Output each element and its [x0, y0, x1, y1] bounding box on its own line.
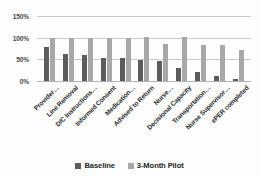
- bar-pilot[interactable]: [50, 38, 55, 81]
- bar-baseline[interactable]: [138, 60, 143, 81]
- bar-pilot[interactable]: [126, 38, 131, 81]
- legend-swatch-baseline: [75, 163, 81, 169]
- bar-group: [78, 16, 97, 81]
- bar-baseline[interactable]: [176, 68, 181, 81]
- legend-item[interactable]: 3-Month Pilot: [128, 161, 184, 170]
- bar-group: [116, 16, 135, 81]
- bar-chart: 150%100%50%0% Provider…Line RemovalD/C I…: [0, 0, 259, 176]
- bar-pilot[interactable]: [182, 37, 187, 81]
- bar-group: [97, 16, 116, 81]
- bar-baseline[interactable]: [82, 55, 87, 81]
- bar-group: [59, 16, 78, 81]
- bar-pilot[interactable]: [201, 45, 206, 81]
- bar-pilot[interactable]: [144, 37, 149, 81]
- legend-item[interactable]: Baseline: [75, 161, 114, 170]
- bar-group: [40, 16, 59, 81]
- bar-groups: [37, 16, 251, 81]
- bar-baseline[interactable]: [214, 76, 219, 81]
- bar-baseline[interactable]: [63, 54, 68, 81]
- bar-baseline[interactable]: [157, 61, 162, 81]
- bar-group: [172, 16, 191, 81]
- y-axis-tick-label: 50%: [16, 56, 29, 63]
- y-axis-tick-label: 100%: [13, 34, 29, 41]
- bar-group: [191, 16, 210, 81]
- legend-label: 3-Month Pilot: [137, 161, 184, 170]
- bar-pilot[interactable]: [239, 50, 244, 81]
- bar-pilot[interactable]: [220, 45, 225, 81]
- bar-pilot[interactable]: [107, 38, 112, 81]
- bar-baseline[interactable]: [101, 58, 106, 81]
- bar-baseline[interactable]: [120, 58, 125, 81]
- plot-area: [37, 16, 251, 81]
- bar-baseline[interactable]: [44, 47, 49, 81]
- chart-legend: Baseline3-Month Pilot: [0, 161, 259, 170]
- bar-pilot[interactable]: [69, 38, 74, 81]
- legend-swatch-pilot: [128, 163, 134, 169]
- bar-baseline[interactable]: [195, 72, 200, 81]
- legend-label: Baseline: [84, 161, 114, 170]
- bar-group: [210, 16, 229, 81]
- bar-baseline[interactable]: [233, 79, 238, 81]
- bar-group: [135, 16, 154, 81]
- bar-pilot[interactable]: [88, 38, 93, 81]
- x-axis-labels: Provider…Line RemovalD/C Instructions…In…: [37, 82, 251, 144]
- y-axis-tick-label: 150%: [13, 13, 29, 20]
- bar-group: [229, 16, 248, 81]
- bar-pilot[interactable]: [163, 44, 168, 81]
- bar-group: [153, 16, 172, 81]
- y-axis-tick-label: 0%: [20, 78, 29, 85]
- y-axis-labels: 150%100%50%0%: [0, 16, 33, 81]
